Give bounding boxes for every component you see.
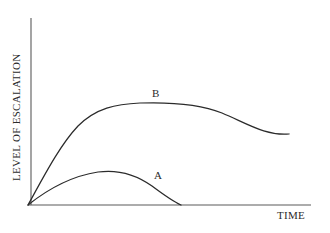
x-axis-title: TIME bbox=[277, 210, 305, 221]
curve-label-b: B bbox=[152, 88, 159, 99]
curve-b-path bbox=[28, 103, 289, 205]
chart-plot-area bbox=[0, 0, 330, 233]
escalation-chart-figure: LEVEL OF ESCALATION TIME B A bbox=[0, 0, 330, 233]
y-axis-title: LEVEL OF ESCALATION bbox=[11, 21, 25, 181]
curve-label-a: A bbox=[154, 170, 162, 181]
